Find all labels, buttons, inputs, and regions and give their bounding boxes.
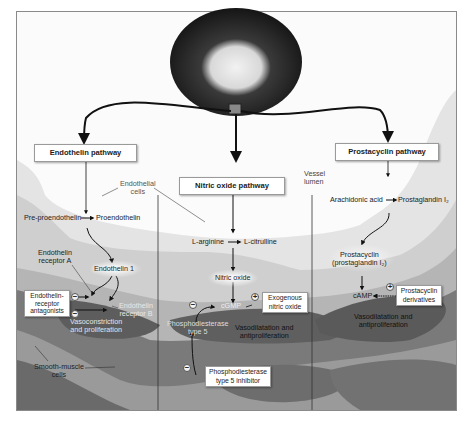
stimulate-cgmp-sign: + — [251, 293, 259, 301]
l-citrulline-label: L-citrulline — [244, 238, 277, 246]
pah-pathways-diagram: Endothelin pathway Nitric oxide pathway … — [0, 0, 472, 424]
vessel-cross-section — [170, 8, 302, 116]
nitric-oxide-label: Nitric oxide — [215, 274, 251, 282]
cgmp-label: cGMP — [221, 302, 241, 310]
endothelial-cells-label: Endothelialcells — [120, 180, 156, 197]
camp-label: cAMP — [353, 292, 372, 300]
pde5-label: Phosphodiesterasetype 5 — [167, 320, 229, 337]
tissue-illustration — [0, 0, 472, 424]
pre-proendothelin-label: Pre-proendothelin — [24, 214, 81, 222]
prostacyclin-derivatives-box: Prostacyclinderivatives — [396, 285, 442, 306]
magnified-region-marker — [229, 104, 241, 114]
endothelin-pathway-box: Endothelin pathway — [34, 144, 137, 162]
l-arginine-label: L-arginine — [192, 238, 224, 246]
proendothelin-label: Proendothelin — [96, 214, 140, 222]
endothelin-receptor-a-label: Endothelinreceptor A — [38, 249, 72, 266]
prostacyclin-label: Prostacyclin(prostaglandin I₂) — [332, 251, 387, 268]
no-vasodilatation-label: Vasodilatation andantiproliferation — [235, 324, 294, 341]
stimulate-camp-sign: + — [386, 283, 394, 291]
arachidonic-acid-label: Arachidonic acid — [330, 196, 383, 204]
prostaglandin-i2-label: Prostaglandin I₂ — [398, 196, 449, 204]
prostacyclin-pathway-box: Prostacyclin pathway — [335, 143, 439, 161]
pde5-degrades-sign: − — [189, 301, 197, 309]
endothelin-1-label: Endothelin 1 — [94, 265, 134, 273]
pc-vasodilatation-label: Vasodilatation andantiproliferation — [354, 313, 413, 330]
nitric-oxide-pathway-box: Nitric oxide pathway — [179, 177, 285, 195]
inhibit-receptor-a-sign: − — [71, 293, 79, 301]
endothelin-receptor-antagonists-box: Endothelin-receptorantagonists — [24, 290, 70, 317]
vasoconstriction-label: Vasoconstrictionand proliferation — [70, 318, 122, 335]
pde5-inhibitor-box: Phosphodiesterasetype 5 inhibitor — [205, 366, 271, 387]
vessel-lumen-label: Vessellumen — [304, 170, 325, 187]
inhibit-pde5-sign: − — [183, 364, 191, 372]
exogenous-nitric-oxide-box: Exogenousnitric oxide — [262, 292, 308, 313]
endothelin-receptor-b-label: Endothelinreceptor B — [119, 302, 153, 319]
smooth-muscle-cells-label: Smooth-musclecells — [34, 363, 84, 380]
